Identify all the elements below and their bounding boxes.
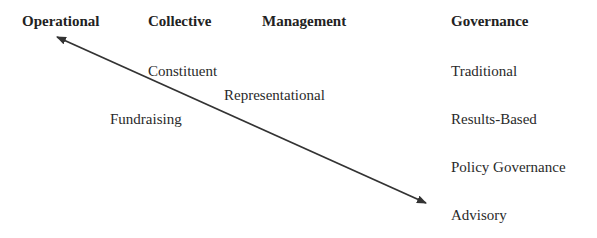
header-collective: Collective	[148, 13, 211, 30]
governance-item-policy-governance: Policy Governance	[451, 159, 566, 176]
header-management: Management	[262, 13, 346, 30]
label-fundraising: Fundraising	[110, 111, 182, 128]
governance-item-advisory: Advisory	[451, 207, 507, 224]
label-representational: Representational	[224, 87, 325, 104]
header-governance: Governance	[451, 13, 528, 30]
governance-item-results-based: Results-Based	[451, 111, 537, 128]
governance-item-traditional: Traditional	[451, 63, 517, 80]
header-operational: Operational	[22, 13, 100, 30]
label-constituent: Constituent	[148, 63, 217, 80]
